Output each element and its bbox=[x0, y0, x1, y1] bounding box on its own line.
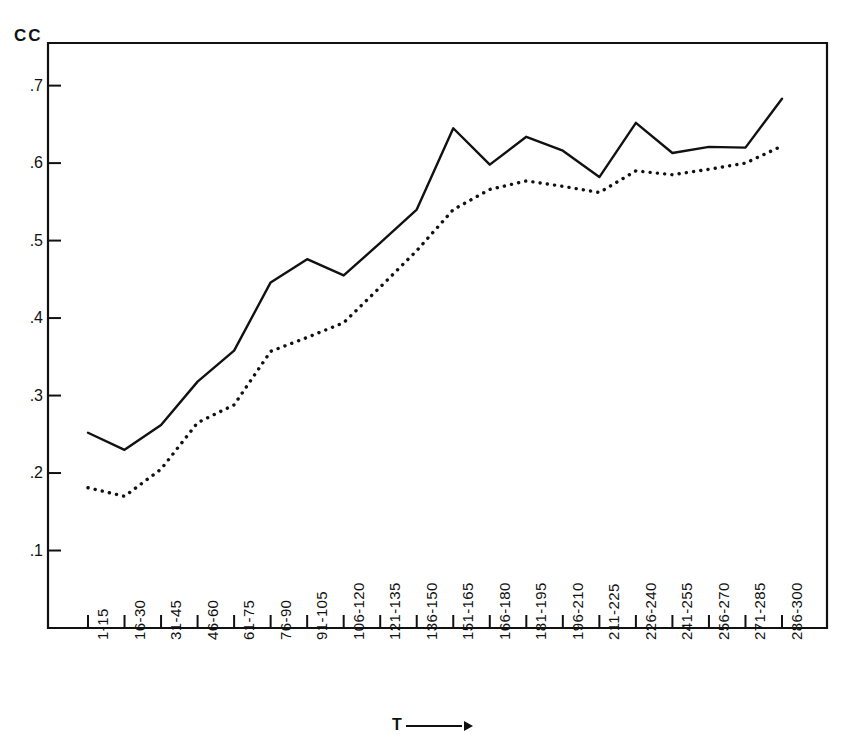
x-tick-label: 76-90 bbox=[277, 600, 294, 640]
axis-frame bbox=[48, 43, 827, 628]
y-tick-label: .2 bbox=[30, 464, 43, 482]
arrow-head-icon bbox=[464, 721, 473, 731]
x-tick-label: 31-45 bbox=[167, 600, 184, 640]
x-tick-label: 1-15 bbox=[94, 608, 111, 640]
x-tick-label: 61-75 bbox=[240, 600, 257, 640]
y-tick-label: .7 bbox=[30, 77, 43, 95]
x-tick-label: 196-210 bbox=[569, 582, 586, 640]
x-tick-label: 151-165 bbox=[459, 582, 476, 640]
x-tick-label: 211-225 bbox=[605, 583, 622, 640]
x-tick-label: 136-150 bbox=[423, 582, 440, 640]
x-tick-label: 166-180 bbox=[496, 582, 513, 640]
x-tick-label: 106-120 bbox=[350, 582, 367, 640]
x-tick-label: 271-285 bbox=[751, 582, 768, 640]
y-tick-label: .1 bbox=[30, 542, 43, 560]
x-tick-label: 16-30 bbox=[131, 600, 148, 640]
x-tick-label: 181-195 bbox=[532, 582, 549, 640]
y-tick-label: .3 bbox=[30, 387, 43, 405]
x-tick-label: 286-300 bbox=[788, 582, 805, 640]
y-tick-label: .5 bbox=[30, 232, 43, 250]
series-dotted-curve bbox=[88, 146, 782, 496]
arrow-shaft-icon bbox=[406, 725, 462, 727]
x-tick-label: 121-135 bbox=[386, 582, 403, 640]
y-tick-label: .4 bbox=[30, 309, 43, 327]
plot-area bbox=[0, 0, 855, 756]
x-tick-label: 226-240 bbox=[642, 582, 659, 640]
series-solid-curve bbox=[88, 99, 782, 450]
y-tick-label: .6 bbox=[30, 154, 43, 172]
x-tick-label: 91-105 bbox=[313, 591, 330, 640]
x-tick-label: 46-60 bbox=[204, 600, 221, 640]
x-axis-caption: T bbox=[392, 716, 473, 734]
x-tick-label: 256-270 bbox=[715, 582, 732, 640]
x-tick-label: 241-255 bbox=[678, 582, 695, 640]
chart-figure: CC .7.6.5.4.3.2.1 1-1516-3031-4546-6061-… bbox=[0, 0, 855, 756]
x-axis-label-text: T bbox=[392, 716, 402, 734]
